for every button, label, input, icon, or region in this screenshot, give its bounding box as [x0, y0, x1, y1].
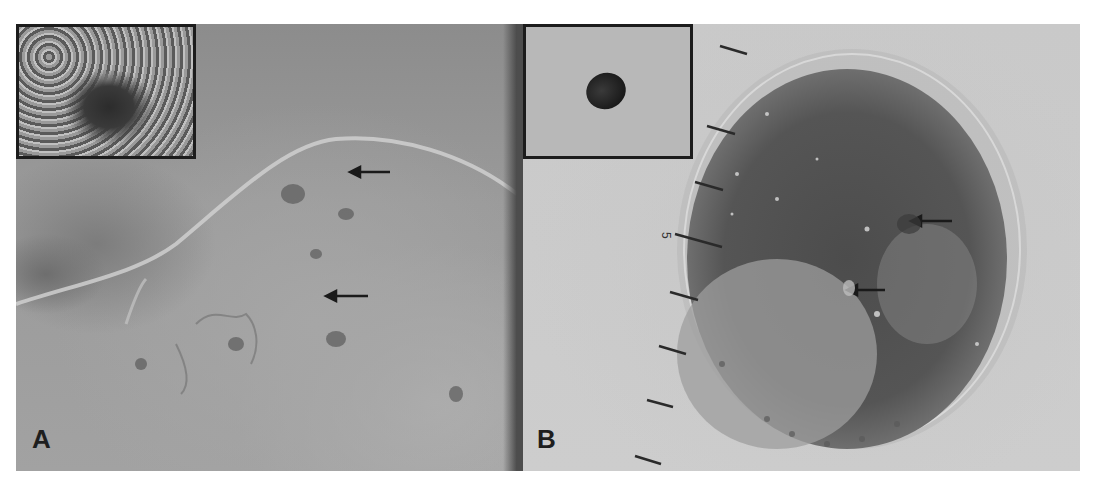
ruler-label: 5: [659, 232, 673, 239]
figure: A: [16, 24, 1080, 471]
inset-b-clinical-image: [523, 24, 693, 159]
lesion-papule: [581, 67, 631, 115]
arrow-icon: [326, 167, 390, 301]
panel-label-b: B: [537, 424, 556, 455]
panel-label-a: A: [32, 424, 51, 455]
inset-a-clinical-image: [16, 24, 196, 159]
panel-b: 5 B: [517, 24, 1080, 471]
panel-a: A: [16, 24, 517, 471]
